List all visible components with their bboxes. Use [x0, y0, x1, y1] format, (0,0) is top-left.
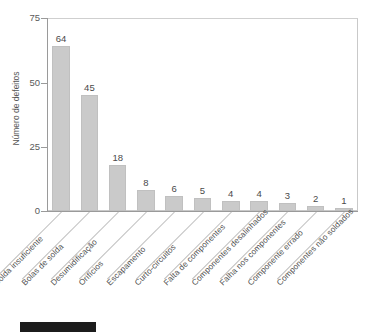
bar-1: [81, 95, 99, 211]
bar-value-10: 1: [330, 196, 358, 206]
bar-value-7: 4: [245, 189, 273, 199]
bar-2: [109, 165, 127, 211]
bar-value-2: 18: [104, 153, 132, 163]
pareto-bar-chart: Número de defeitos 75 50 25 0 64 45 18 8…: [0, 0, 372, 336]
bar-8: [279, 203, 297, 211]
bar-value-9: 2: [302, 194, 330, 204]
category-label-3: Orifícios: [77, 259, 105, 287]
bar-5: [194, 198, 212, 211]
bar-4: [165, 196, 183, 211]
y-axis-title: Número de defeitos: [12, 44, 21, 174]
y-tick-label-25: 25: [10, 142, 40, 152]
bar-3: [137, 190, 155, 211]
footer-redaction-block: [20, 322, 96, 332]
bar-value-3: 8: [132, 178, 160, 188]
bar-0: [52, 46, 70, 211]
bar-value-4: 6: [160, 184, 188, 194]
y-tick-label-50: 50: [10, 78, 40, 88]
bar-6: [222, 201, 240, 211]
bar-value-6: 4: [217, 189, 245, 199]
bar-value-5: 5: [189, 186, 217, 196]
bar-value-0: 64: [47, 34, 75, 44]
bar-value-1: 45: [75, 83, 103, 93]
bars-layer: [47, 18, 358, 211]
category-labels-layer: Solda insuficiente Bolas de solda Desumi…: [0, 211, 372, 321]
y-tick-label-75: 75: [10, 13, 40, 23]
bar-value-8: 3: [273, 191, 301, 201]
